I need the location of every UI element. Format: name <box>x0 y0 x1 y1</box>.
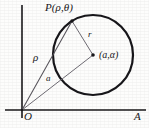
label-center-coord: (a,α) <box>99 50 118 60</box>
segment-rho <box>22 21 72 110</box>
label-radius-r: r <box>88 30 92 39</box>
figure-canvas <box>0 0 149 128</box>
label-segment-rho: ρ <box>33 52 38 63</box>
point-p-marker <box>70 19 73 22</box>
label-point-p: P(ρ,θ) <box>45 2 73 13</box>
label-polar-axis: A <box>134 111 141 122</box>
segment-a <box>22 55 93 110</box>
label-origin: O <box>24 111 32 122</box>
polar-circle-figure: P(ρ,θ) r (a,α) ρ a O A <box>0 0 149 128</box>
origin-marker <box>21 109 23 111</box>
label-segment-a: a <box>46 74 51 83</box>
circle-center-marker <box>91 53 95 57</box>
